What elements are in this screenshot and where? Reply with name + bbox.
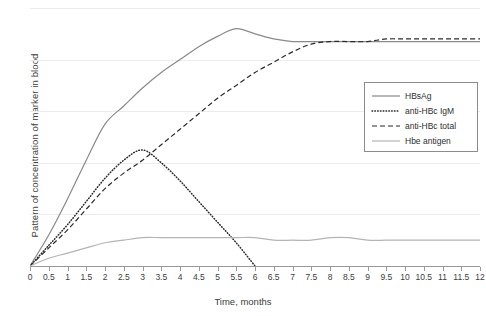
legend-line-icon: [371, 136, 401, 146]
x-tick-label: 12: [475, 272, 484, 282]
x-tick: [218, 267, 219, 271]
x-tick: [199, 267, 200, 271]
x-tick-label: 8.5: [343, 272, 355, 282]
x-tick-label: 4.5: [193, 272, 205, 282]
x-tick: [255, 267, 256, 271]
x-axis-tick-labels: 00.511.522.533.544.555.566.577.588.599.5…: [30, 272, 480, 286]
chart-figure: Pattern of concentration of marker in bl…: [0, 0, 486, 316]
legend-line-icon: [371, 121, 401, 131]
x-tick: [480, 267, 481, 271]
x-tick-label: 5: [215, 272, 220, 282]
legend-label: anti-HBc IgM: [405, 106, 454, 116]
x-tick: [424, 267, 425, 271]
series-line: [30, 237, 480, 266]
x-tick: [161, 267, 162, 271]
x-tick: [330, 267, 331, 271]
x-tick-label: 5.5: [230, 272, 242, 282]
x-tick: [236, 267, 237, 271]
x-tick-label: 8: [328, 272, 333, 282]
x-tick-label: 0.5: [43, 272, 55, 282]
x-tick-label: 6: [253, 272, 258, 282]
x-tick: [124, 267, 125, 271]
chart-legend: HBsAganti-HBc IgManti-HBc totalHbe antig…: [364, 82, 478, 152]
x-tick-label: 10: [400, 272, 409, 282]
x-tick-label: 11: [438, 272, 447, 282]
x-tick: [143, 267, 144, 271]
x-tick: [349, 267, 350, 271]
legend-item: anti-HBc total: [371, 118, 473, 133]
x-tick: [105, 267, 106, 271]
legend-item: HBsAg: [371, 88, 473, 103]
x-tick-label: 7: [290, 272, 295, 282]
x-tick: [274, 267, 275, 271]
x-tick-label: 1: [65, 272, 70, 282]
legend-label: anti-HBc total: [405, 121, 456, 131]
x-tick: [68, 267, 69, 271]
x-tick-label: 7.5: [305, 272, 317, 282]
x-tick-label: 6.5: [268, 272, 280, 282]
legend-item: Hbe antigen: [371, 133, 473, 148]
x-tick: [386, 267, 387, 271]
x-tick: [405, 267, 406, 271]
x-tick-label: 9.5: [380, 272, 392, 282]
x-axis-label: Time, months: [0, 296, 486, 307]
x-tick: [311, 267, 312, 271]
x-tick: [293, 267, 294, 271]
x-tick: [30, 267, 31, 271]
x-tick: [461, 267, 462, 271]
legend-label: Hbe antigen: [405, 136, 451, 146]
x-tick: [180, 267, 181, 271]
x-tick-label: 2.5: [118, 272, 130, 282]
x-tick-label: 3: [140, 272, 145, 282]
x-tick-label: 3.5: [155, 272, 167, 282]
legend-label: HBsAg: [405, 91, 431, 101]
legend-line-icon: [371, 91, 401, 101]
x-tick-label: 1.5: [80, 272, 92, 282]
legend-line-icon: [371, 106, 401, 116]
series-line: [30, 39, 480, 266]
x-tick-label: 4: [178, 272, 183, 282]
x-tick: [49, 267, 50, 271]
x-tick-label: 10.5: [416, 272, 433, 282]
x-tick-label: 9: [365, 272, 370, 282]
x-tick-label: 2: [103, 272, 108, 282]
series-line: [30, 150, 255, 266]
x-tick: [443, 267, 444, 271]
x-tick: [86, 267, 87, 271]
x-tick: [368, 267, 369, 271]
x-tick-label: 11.5: [453, 272, 469, 282]
x-tick-label: 0: [28, 272, 33, 282]
legend-item: anti-HBc IgM: [371, 103, 473, 118]
